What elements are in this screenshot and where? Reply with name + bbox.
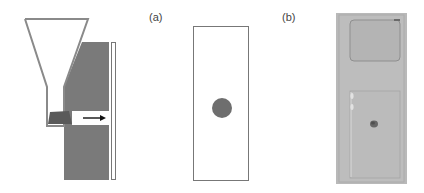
plate bbox=[112, 43, 116, 180]
sample-wedge bbox=[48, 111, 72, 124]
panel-b-label: (b) bbox=[282, 11, 295, 23]
panel-a-label: (a) bbox=[149, 11, 162, 23]
sample-dot bbox=[212, 98, 232, 118]
apparatus-schematic bbox=[0, 0, 424, 193]
slide-photo bbox=[336, 13, 407, 184]
